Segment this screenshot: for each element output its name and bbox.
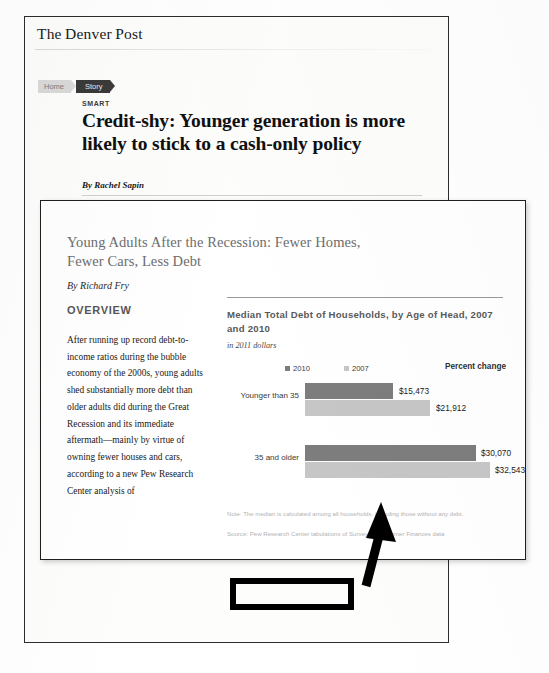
masthead-word-post: Post: [115, 25, 143, 42]
breadcrumb-item-story[interactable]: Story: [76, 80, 110, 93]
bar-2007-younger-than-35: [305, 400, 430, 416]
pew-report-page: Young Adults After the Recession: Fewer …: [40, 200, 526, 560]
bar-value-2010-younger-than-35: $15,473: [399, 383, 429, 399]
breadcrumb-item-home[interactable]: Home: [38, 80, 71, 93]
report-byline: By Richard Fry: [67, 280, 129, 291]
article-byline: By Rachel Sapin: [82, 180, 144, 190]
chart-subtitle: in 2011 dollars: [227, 341, 276, 350]
arrow-annotation: [300, 498, 440, 588]
percent-change-column-header: Percent change: [445, 361, 506, 372]
masthead-word-the: The: [37, 25, 62, 42]
scanned-page: The Denver Post Home Story SMART Credit-…: [0, 0, 549, 673]
denver-post-masthead: The Denver Post: [37, 25, 143, 43]
masthead-word-denver: Denver: [65, 25, 112, 42]
page-title: Credit-shy: Younger generation is more l…: [82, 110, 417, 155]
chart-title: Median Total Debt of Households, by Age …: [227, 308, 493, 336]
bar-2007-35-and-older: [305, 462, 490, 478]
legend-swatch-2010-icon: [285, 366, 290, 371]
legend-label-2010: 2010: [293, 364, 310, 373]
chart-plot-area: Younger than 35 $15,473 $21,912 29% decl…: [227, 383, 503, 508]
bar-value-2007-younger-than-35: $21,912: [436, 400, 466, 416]
section-kicker: SMART: [82, 100, 110, 107]
overview-body-text: After running up record debt-to-income r…: [67, 332, 207, 499]
category-label-35-and-older: 35 and older: [227, 453, 299, 462]
legend-item-2007: 2007: [344, 364, 369, 373]
category-label-younger-than-35: Younger than 35: [227, 391, 299, 400]
legend-item-2010: 2010: [285, 364, 310, 373]
overview-heading: OVERVIEW: [67, 304, 132, 316]
masthead-divider: [35, 49, 433, 50]
legend-label-2007: 2007: [352, 364, 369, 373]
bar-value-2010-35-and-older: $30,070: [481, 445, 511, 461]
legend-swatch-2007-icon: [344, 366, 349, 371]
byline-divider: [82, 195, 422, 196]
chart-top-divider: [227, 297, 503, 298]
chart-legend: 2010 2007: [285, 364, 369, 373]
bar-value-2007-35-and-older: $32,543: [495, 462, 525, 478]
bar-2010-35-and-older: [305, 445, 476, 461]
bar-2010-younger-than-35: [305, 383, 393, 399]
report-title: Young Adults After the Recession: Fewer …: [67, 233, 367, 271]
breadcrumb: Home Story: [38, 80, 110, 93]
